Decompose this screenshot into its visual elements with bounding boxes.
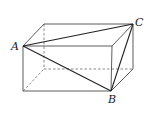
- label-C: C: [135, 16, 144, 29]
- segment-BC: [111, 24, 133, 91]
- diagonals: [23, 24, 133, 91]
- edge-front-right: [111, 46, 112, 91]
- visible-edges: [23, 24, 133, 91]
- hidden-edge-bottom-left-slant: [23, 69, 44, 91]
- hidden-edges: [23, 24, 133, 91]
- segment-AB: [23, 46, 111, 91]
- segment-AC: [23, 24, 133, 46]
- label-B: B: [107, 93, 116, 106]
- box-diagram: A C B: [0, 0, 150, 117]
- label-A: A: [10, 40, 19, 53]
